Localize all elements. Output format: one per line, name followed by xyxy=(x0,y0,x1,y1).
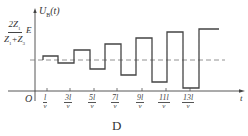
origin-label: O xyxy=(25,94,32,104)
x-axis-label: t xyxy=(240,94,243,103)
tick-label-11: 11lv xyxy=(158,94,170,110)
y-axis-arrow-icon xyxy=(33,8,36,13)
tick-label-9: 9lv xyxy=(136,94,144,110)
y-axis-label: UB(t) xyxy=(39,6,60,18)
reference-level-label: 2Z1 Z1+Z3 E xyxy=(4,19,32,46)
option-caption: D xyxy=(112,118,121,134)
tick-label-13: 13lv xyxy=(182,94,194,110)
tick-label-1: lv xyxy=(43,94,47,110)
step-waveform xyxy=(43,29,219,88)
tick-label-5: 5lv xyxy=(88,94,96,110)
tick-label-7: 7lv xyxy=(111,94,119,110)
tick-label-3: 3lv xyxy=(64,94,72,110)
waveform-diagram xyxy=(0,0,248,136)
